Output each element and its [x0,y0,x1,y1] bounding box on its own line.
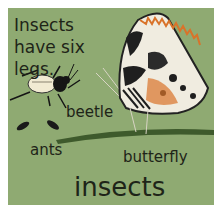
page-title: insects [74,174,165,200]
butterfly-label: butterfly [123,150,188,165]
ants-label: ants [30,143,62,158]
page-heading: Insects have six legs. [14,14,114,80]
beetle-label: beetle [66,105,113,120]
insects-page: Insects have six legs. beetle ants butte… [8,8,214,205]
grass-stem-icon [56,129,214,144]
ants-icon [15,119,60,133]
